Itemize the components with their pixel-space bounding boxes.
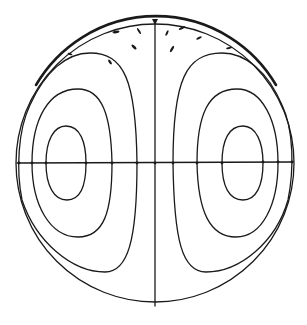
flow-mark xyxy=(107,59,112,65)
flow-mark xyxy=(136,27,141,34)
right-inner-contour xyxy=(222,126,263,200)
flow-mark xyxy=(131,44,137,50)
flow-mark xyxy=(165,30,169,36)
flow-mark xyxy=(169,45,175,52)
flow-mark xyxy=(196,36,202,40)
circulation-diagram xyxy=(0,0,307,325)
boundary-thick-upper-arc xyxy=(36,16,276,85)
right-middle-contour xyxy=(197,89,278,237)
